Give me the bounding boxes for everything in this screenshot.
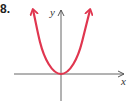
parabola-left-branch: [33, 10, 61, 74]
y-axis-label: y: [49, 6, 55, 18]
parabola-right-branch: [61, 10, 90, 74]
parabola-chart: y x: [0, 0, 127, 104]
x-axis-label: x: [120, 75, 126, 87]
